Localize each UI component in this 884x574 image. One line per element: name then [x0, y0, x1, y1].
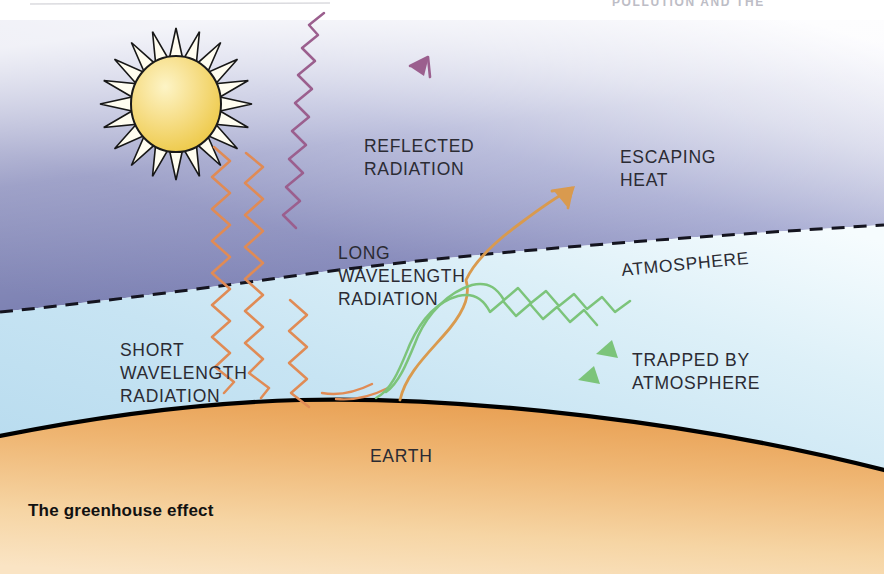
label-long-wavelength-line-3: RADIATION	[338, 289, 438, 309]
label-escaping-heat-line-1: ESCAPING	[620, 147, 716, 167]
label-short-wavelength-line-2: WAVELENGTH	[120, 363, 248, 383]
label-escaping-heat-line-2: HEAT	[620, 170, 668, 190]
figure-page: POLLUTION AND THE	[0, 0, 884, 574]
greenhouse-effect-diagram: POLLUTION AND THE	[0, 0, 884, 574]
label-long-wavelength-line-1: LONG	[338, 243, 390, 263]
running-head: POLLUTION AND THE	[612, 0, 765, 9]
label-long-wavelength-line-2: WAVELENGTH	[338, 266, 466, 286]
label-reflected-radiation-line-1: REFLECTED	[364, 136, 474, 156]
label-earth: EARTH	[370, 446, 433, 466]
label-short-wavelength-line-1: SHORT	[120, 340, 184, 360]
label-trapped-line-1: TRAPPED BY	[632, 350, 750, 370]
label-trapped-line-2: ATMOSPHERE	[632, 373, 760, 393]
figure-caption: The greenhouse effect	[28, 501, 214, 520]
sun-disc	[131, 56, 221, 152]
header-rule	[30, 3, 330, 4]
label-reflected-radiation-line-2: RADIATION	[364, 159, 464, 179]
label-short-wavelength-line-3: RADIATION	[120, 386, 220, 406]
